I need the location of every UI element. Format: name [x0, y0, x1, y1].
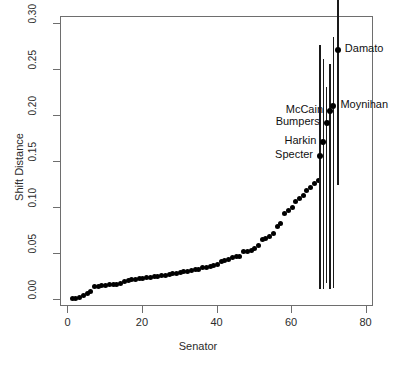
- highlighted-data-point: [335, 47, 341, 53]
- data-point: [237, 254, 242, 259]
- scatter-chart-figure: Shift Distance 0.000.050.100.150.200.250…: [0, 0, 396, 372]
- y-tick-label-text: 0.25: [26, 50, 40, 88]
- plot-area: [60, 16, 373, 306]
- x-tick-label: 60: [271, 316, 311, 328]
- y-tick-label: 0.15: [14, 154, 52, 168]
- y-tick-mark: [53, 161, 60, 162]
- data-point: [88, 289, 93, 294]
- data-point: [308, 185, 313, 190]
- y-tick-mark: [53, 299, 60, 300]
- x-tick-label: 40: [197, 316, 237, 328]
- y-tick-mark: [53, 23, 60, 24]
- data-point: [301, 193, 306, 198]
- highlighted-data-point: [324, 120, 330, 126]
- x-tick-label: 20: [122, 316, 162, 328]
- data-point: [271, 231, 276, 236]
- highlighted-data-point: [317, 153, 323, 159]
- x-tick-label: 80: [346, 316, 386, 328]
- y-tick-label: 0.30: [14, 16, 52, 30]
- x-axis-title: Senator: [0, 340, 396, 352]
- point-label-moynihan: Moynihan: [340, 98, 388, 110]
- highlighted-data-point: [330, 103, 336, 109]
- y-tick-label: 0.20: [14, 108, 52, 122]
- y-tick-label-text: 0.05: [26, 234, 40, 272]
- y-tick-mark: [53, 253, 60, 254]
- error-bar: [333, 37, 335, 288]
- point-label-damato: Damato: [345, 42, 384, 54]
- y-tick-label-text: 0.30: [26, 4, 40, 42]
- y-tick-label: 0.00: [14, 292, 52, 306]
- data-point: [278, 221, 283, 226]
- y-tick-label-text: 0.10: [26, 188, 40, 226]
- error-bar: [326, 87, 328, 283]
- y-tick-mark: [53, 207, 60, 208]
- error-bar: [319, 45, 321, 289]
- y-tick-label-text: 0.15: [26, 142, 40, 180]
- x-tick-mark: [291, 306, 292, 313]
- x-tick-mark: [366, 306, 367, 313]
- y-tick-label: 0.25: [14, 62, 52, 76]
- point-label-specter: Specter: [275, 148, 313, 160]
- y-tick-mark: [53, 69, 60, 70]
- x-tick-mark: [67, 306, 68, 313]
- data-point: [256, 243, 261, 248]
- point-label-mccain: McCain: [286, 103, 323, 115]
- y-tick-label-text: 0.20: [26, 96, 40, 134]
- y-tick-label: 0.10: [14, 200, 52, 214]
- y-tick-mark: [53, 115, 60, 116]
- data-point: [290, 205, 295, 210]
- y-tick-label: 0.05: [14, 246, 52, 260]
- x-tick-mark: [142, 306, 143, 313]
- error-bar: [323, 59, 325, 288]
- error-bar: [337, 0, 339, 185]
- x-tick-mark: [217, 306, 218, 313]
- x-tick-label: 0: [47, 316, 87, 328]
- point-label-harkin: Harkin: [285, 134, 317, 146]
- point-label-bumpers: Bumpers: [276, 115, 320, 127]
- error-bar: [329, 64, 331, 289]
- y-tick-label-text: 0.00: [26, 280, 40, 318]
